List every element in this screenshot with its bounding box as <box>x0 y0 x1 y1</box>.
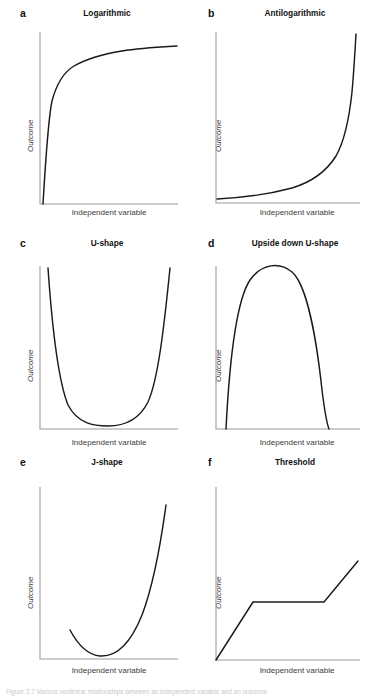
plot-c <box>0 230 188 449</box>
axis-lines-e <box>40 487 178 659</box>
panel-f: f Threshold Outcome Independent variable <box>188 449 376 677</box>
curve-antilogarithmic <box>217 34 356 199</box>
plot-d <box>188 230 376 449</box>
panel-c: c U-shape Outcome Independent variable <box>0 230 188 449</box>
plot-e <box>0 449 188 677</box>
axis-lines-d <box>216 266 360 429</box>
plot-f <box>188 449 376 677</box>
panel-b: b Antilogarithmic Outcome Independent va… <box>188 0 376 219</box>
plot-b <box>188 0 376 219</box>
panel-a: a Logarithmic Outcome Independent variab… <box>0 0 188 219</box>
curve-j-shape <box>70 505 166 656</box>
axis-lines-c <box>40 266 178 429</box>
curve-u-shape <box>48 268 170 426</box>
figure-caption-partial: Figure 2.7 Various nonlinear relationshi… <box>6 688 372 697</box>
plot-a <box>0 0 188 219</box>
curve-logarithmic <box>43 46 177 204</box>
panel-e: e J-shape Outcome Independent variable <box>0 449 188 677</box>
axis-lines-f <box>216 487 360 660</box>
figure-nonlinear-relationships: a Logarithmic Outcome Independent variab… <box>0 0 376 699</box>
axis-lines-b <box>216 32 360 203</box>
axis-lines-a <box>40 32 178 204</box>
curve-upside-down-u-shape <box>226 266 329 429</box>
curve-threshold <box>216 561 358 660</box>
panel-d: d Upside down U-shape Outcome Independen… <box>188 230 376 449</box>
